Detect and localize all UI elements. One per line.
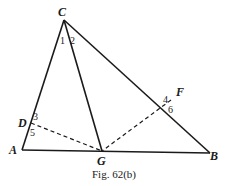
segment-CA xyxy=(22,20,64,150)
geometry-figure: C A B D F G 1 2 3 4 5 6 Fig. 62(b) xyxy=(0,0,236,186)
segment-AB xyxy=(22,150,210,153)
label-F: F xyxy=(175,85,184,99)
segment-DG xyxy=(31,123,102,151)
segment-CB xyxy=(64,20,210,153)
label-A: A xyxy=(8,143,17,157)
label-B: B xyxy=(209,149,218,163)
label-G: G xyxy=(97,154,106,168)
angle-2: 2 xyxy=(70,35,75,46)
label-C: C xyxy=(58,5,67,19)
label-D: D xyxy=(17,116,27,130)
angle-6: 6 xyxy=(168,104,173,115)
angle-1: 1 xyxy=(60,35,65,46)
angle-3: 3 xyxy=(33,111,38,122)
angle-5: 5 xyxy=(30,127,35,138)
figure-caption: Fig. 62(b) xyxy=(92,168,136,181)
